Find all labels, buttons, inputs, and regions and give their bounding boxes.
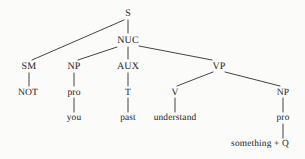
tree-node-pro1: pro: [67, 87, 80, 98]
tree-edge-nuc-to-np1: [78, 47, 117, 60]
tree-node-pro2: pro: [277, 113, 290, 124]
tree-node-somethingq: something + Q: [231, 139, 289, 150]
tree-node-nuc: NUC: [117, 35, 139, 46]
tree-node-past: past: [120, 113, 136, 124]
tree-node-v: V: [171, 87, 178, 98]
tree-node-s: S: [125, 8, 131, 19]
syntax-tree-diagram: SNUCSMNPAUXVPNOTproTVNPyoupastunderstand…: [0, 0, 305, 159]
tree-node-vp: VP: [212, 61, 225, 72]
tree-edge-nuc-to-vp: [139, 46, 212, 60]
tree-edge-s-to-sm: [32, 20, 124, 60]
tree-node-t: T: [125, 87, 131, 98]
tree-node-aux: AUX: [117, 61, 139, 72]
tree-node-np2: NP: [277, 87, 290, 98]
tree-node-you: you: [67, 113, 82, 124]
tree-edge-vp-to-np2: [225, 72, 280, 86]
tree-node-understand: understand: [154, 113, 197, 124]
tree-node-sm: SM: [22, 61, 37, 72]
tree-node-not: NOT: [18, 87, 38, 98]
tree-edge-vp-to-v: [177, 72, 213, 86]
tree-node-np1: NP: [67, 61, 80, 72]
tree-edge-layer: [0, 0, 305, 159]
